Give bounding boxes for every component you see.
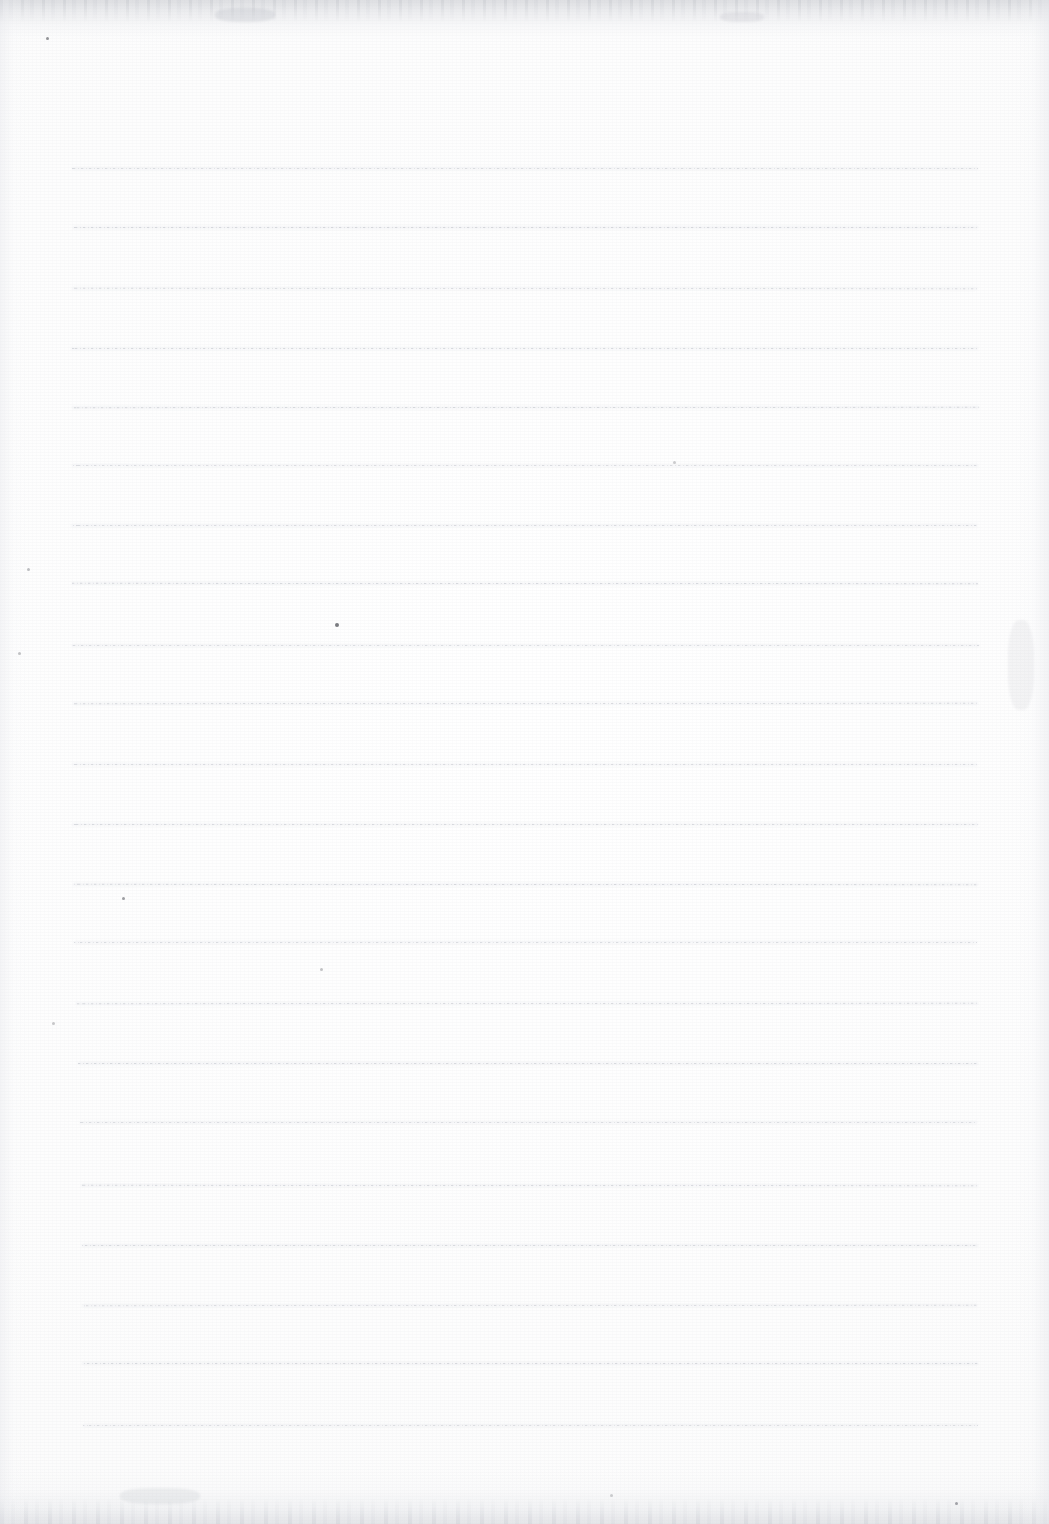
paper-background [0,0,1049,1524]
scanned-page [0,0,1049,1524]
